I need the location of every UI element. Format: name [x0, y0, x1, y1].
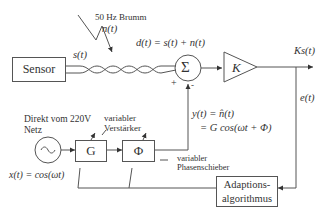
- estimate-label-line2: = G cos(ωt + Φ): [200, 123, 272, 134]
- phase-shifter-block: Φ: [122, 140, 155, 162]
- sensor-signal-label: s(t): [73, 50, 87, 61]
- variable-gain-block: G: [75, 140, 107, 162]
- output-signal-label: Ks(t): [294, 46, 315, 57]
- var-amp-line1: variabler: [104, 114, 136, 123]
- sensor-label: Sensor: [23, 62, 56, 77]
- phase-phi-label: Φ: [134, 143, 144, 159]
- minus-sign: -: [191, 81, 194, 90]
- var-amp-line2: Verstärker: [104, 124, 141, 133]
- adaption-label-line1: Adaptions-: [224, 178, 271, 191]
- amplifier-k-label: K: [232, 61, 241, 74]
- plus-sign: +: [171, 78, 177, 88]
- adaption-label-line2: algorithmus: [222, 192, 272, 205]
- noise-title-label: 50 Hz Brumm: [95, 13, 147, 22]
- gain-g-label: G: [86, 143, 95, 159]
- error-signal-label: e(t): [300, 93, 315, 104]
- sensor-block: Sensor: [12, 57, 66, 82]
- adaptive-noise-cancellation-diagram: Sensor Σ + - K G Φ Adaptions- algorithmu…: [0, 0, 327, 212]
- adaption-algorithm-block: Adaptions- algorithmus: [216, 176, 278, 207]
- var-phase-line2: Phasenschieber: [177, 163, 229, 172]
- disturbed-signal-label: d(t) = s(t) + n(t): [136, 38, 205, 49]
- summer-sigma-label: Σ: [181, 60, 190, 75]
- noise-signal-label: n(t): [102, 24, 117, 35]
- estimate-label-line1: y(t) = n̂(t): [192, 109, 234, 120]
- reference-signal-label: x(t) = cos(ωt): [9, 170, 64, 180]
- source-desc-line1: Direkt vom 220V: [24, 115, 91, 125]
- source-desc-line2: Netz: [24, 126, 42, 136]
- twisted-pair-cable: [66, 66, 176, 73]
